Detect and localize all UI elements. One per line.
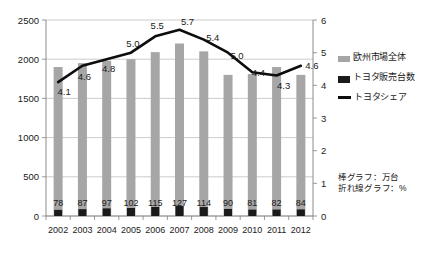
bar-toyota-sales xyxy=(224,209,232,216)
bar-toyota-sales xyxy=(273,210,281,216)
bar-market-total xyxy=(126,59,135,216)
right-axis-tick-label: 5 xyxy=(321,47,326,58)
bar-market-total xyxy=(151,52,160,216)
right-axis-tick-label: 2 xyxy=(321,145,326,156)
x-axis-year-label: 2008 xyxy=(194,225,214,235)
bar-market-total xyxy=(224,75,233,216)
x-axis-year-label: 2011 xyxy=(267,225,286,235)
right-axis-tick-label: 0 xyxy=(321,211,326,222)
bar-value-label: 127 xyxy=(172,198,187,208)
x-axis-year-label: 2005 xyxy=(121,225,141,235)
chart-svg: 0500100015002000250001234567887971021151… xyxy=(0,0,430,257)
left-axis-tick-label: 0 xyxy=(34,211,39,222)
left-axis-tick-label: 2500 xyxy=(18,15,39,26)
line-value-label: 4.4 xyxy=(252,67,265,78)
bar-toyota-sales xyxy=(127,208,135,216)
line-value-label: 5.0 xyxy=(126,38,139,49)
bar-value-label: 84 xyxy=(296,198,306,208)
x-axis-year-label: 2012 xyxy=(291,225,311,235)
bar-value-label: 78 xyxy=(53,198,63,208)
x-axis-year-label: 2009 xyxy=(218,225,238,235)
line-value-label: 4.8 xyxy=(102,63,115,74)
bar-toyota-sales xyxy=(103,208,111,216)
note-line-bar-unit: 棒グラフ：万台 xyxy=(338,172,430,183)
line-value-label: 5.0 xyxy=(230,50,243,61)
left-axis-tick-label: 500 xyxy=(23,171,39,182)
chart-container: 0500100015002000250001234567887971021151… xyxy=(0,0,430,257)
bar-market-total xyxy=(102,61,111,216)
left-axis-tick-label: 2000 xyxy=(18,54,39,65)
right-axis-tick-label: 4 xyxy=(321,80,326,91)
bar-toyota-sales xyxy=(200,207,208,216)
right-axis-tick-label: 6 xyxy=(321,15,326,26)
x-axis-year-label: 2002 xyxy=(48,225,68,235)
line-value-label: 4.6 xyxy=(78,71,91,82)
legend-item-toyota-sales[interactable]: トヨタ販売台数 xyxy=(338,72,430,83)
bar-toyota-sales xyxy=(151,207,159,216)
bar-value-label: 87 xyxy=(77,198,87,208)
legend-item-toyota-share[interactable]: トヨタシェア xyxy=(338,92,430,103)
legend-label-toyota-share: トヨタシェア xyxy=(354,92,407,103)
chart-legend: 欧州市場全体 トヨタ販売台数 トヨタシェア xyxy=(338,52,430,112)
bar-toyota-sales xyxy=(78,209,86,216)
bar-black-swatch-icon xyxy=(338,76,350,83)
bar-value-label: 115 xyxy=(148,198,162,208)
x-axis-year-label: 2006 xyxy=(145,225,165,235)
line-value-label: 5.7 xyxy=(181,16,194,27)
left-axis-tick-label: 1500 xyxy=(18,93,39,104)
left-axis-tick-label: 1000 xyxy=(18,132,39,143)
bar-value-label: 82 xyxy=(272,198,282,208)
bar-market-total xyxy=(296,75,305,216)
bar-market-total xyxy=(175,44,184,216)
bar-market-total xyxy=(199,51,208,216)
bar-market-total xyxy=(78,63,87,216)
x-axis-year-label: 2003 xyxy=(72,225,92,235)
bar-toyota-sales xyxy=(297,209,305,216)
line-value-label: 5.5 xyxy=(151,20,164,31)
bar-toyota-sales xyxy=(54,210,62,216)
bar-value-label: 90 xyxy=(223,198,233,208)
legend-item-market-total[interactable]: 欧州市場全体 xyxy=(338,52,430,63)
line-value-label: 4.3 xyxy=(277,80,290,91)
bar-value-label: 114 xyxy=(197,198,211,208)
note-line-line-unit: 折れ線グラフ：% xyxy=(338,183,430,194)
bar-market-total xyxy=(248,74,257,216)
bar-value-label: 102 xyxy=(123,198,138,208)
chart-note: 棒グラフ：万台 折れ線グラフ：% xyxy=(338,172,430,194)
bar-value-label: 81 xyxy=(247,198,257,208)
right-axis-tick-label: 1 xyxy=(321,178,326,189)
bar-grey-swatch-icon xyxy=(338,56,350,62)
x-axis-year-label: 2010 xyxy=(242,225,262,235)
legend-label-toyota-sales: トヨタ販売台数 xyxy=(353,72,415,83)
x-axis-year-label: 2004 xyxy=(97,225,117,235)
x-axis-year-label: 2007 xyxy=(169,225,189,235)
line-value-label: 5.4 xyxy=(206,32,219,43)
right-axis-tick-label: 3 xyxy=(321,113,326,124)
line-value-label: 4.6 xyxy=(305,60,318,71)
line-value-label: 4.1 xyxy=(58,86,71,97)
legend-label-market-total: 欧州市場全体 xyxy=(353,52,406,63)
bar-toyota-sales xyxy=(248,210,256,216)
line-black-swatch-icon xyxy=(338,96,351,99)
plot-area: 0500100015002000250001234567887971021151… xyxy=(0,0,430,257)
bar-value-label: 97 xyxy=(102,198,112,208)
